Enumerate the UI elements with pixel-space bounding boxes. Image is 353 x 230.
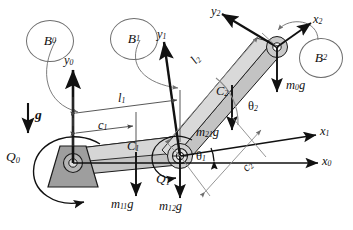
axis-label-x0: x0	[322, 155, 331, 168]
figure-canvas: B0 B1 B2 y0 x0 y1 x1 y2 x2 l1 l2 c1 c2 C…	[0, 0, 353, 230]
dimension-label-l1: l1	[118, 92, 125, 105]
torque-label-q0: Q0	[6, 150, 20, 165]
force-label-m21g: m21g	[196, 126, 219, 139]
angle-label-theta1: θ1	[196, 150, 206, 163]
force-label-gravity: g	[35, 108, 42, 122]
axis-label-x2: x2	[313, 13, 322, 26]
mass-center-label-c2: C2	[216, 85, 228, 98]
axis-label-y2: y2	[211, 5, 220, 18]
force-label-m11g: m11g	[111, 198, 133, 211]
body-label-b1: B1	[110, 18, 158, 60]
angle-label-theta2: θ2	[248, 100, 258, 113]
body-label-b2: B2	[299, 38, 343, 78]
mass-center-label-c1: C1	[127, 140, 139, 153]
axis-label-y1: y1	[157, 28, 166, 41]
force-label-m0g: m0g	[286, 79, 305, 92]
torque-label-q1: Q1	[156, 172, 170, 187]
dimension-label-c1: c1	[98, 119, 107, 132]
axis-label-x1: x1	[320, 125, 329, 138]
force-label-m12g: m12g	[159, 200, 182, 213]
axis-label-y0: y0	[64, 54, 73, 67]
dimension-l1	[73, 90, 180, 142]
